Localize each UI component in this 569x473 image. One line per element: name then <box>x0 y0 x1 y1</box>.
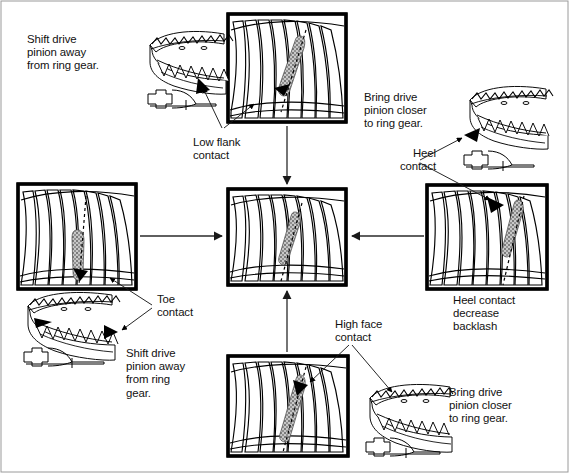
label-bring-drive-pinion-closer-top: Bring drive pinion closer to ring gear. <box>364 91 468 131</box>
gear-top-right-artwork <box>464 86 553 171</box>
gear-contact-pattern-diagram: Shift drive pinion away from ring gear. … <box>0 0 569 473</box>
label-toe-contact: Toe contact <box>157 293 221 319</box>
label-shift-drive-pinion-away-bottom: Shift drive pinion away from ring gear. <box>126 347 218 400</box>
label-bring-drive-pinion-closer-bottom: Bring drive pinion closer to ring gear. <box>449 386 555 426</box>
label-shift-drive-pinion-away-top: Shift drive pinion away from ring gear. <box>27 33 135 73</box>
label-high-face-contact: High face contact <box>335 318 415 344</box>
panel-left-artwork <box>18 184 136 289</box>
panel-center-artwork <box>228 189 346 285</box>
gear-bottom-left-artwork <box>24 292 120 368</box>
label-heel-contact: Heel contact <box>380 147 436 173</box>
leader-toe-to-gear <box>122 308 152 330</box>
label-heel-contact-decrease-backlash: Heel contact decrease backlash <box>453 294 563 334</box>
panel-top-artwork <box>228 14 346 122</box>
gear-top-left-artwork <box>148 31 233 110</box>
panel-bottom-artwork <box>228 356 348 456</box>
gear-bottom-right-artwork <box>366 384 453 458</box>
label-low-flank-contact: Low flank contact <box>193 136 279 162</box>
leader-high-face-to-gear <box>352 345 392 392</box>
panel-right-artwork <box>427 185 547 289</box>
